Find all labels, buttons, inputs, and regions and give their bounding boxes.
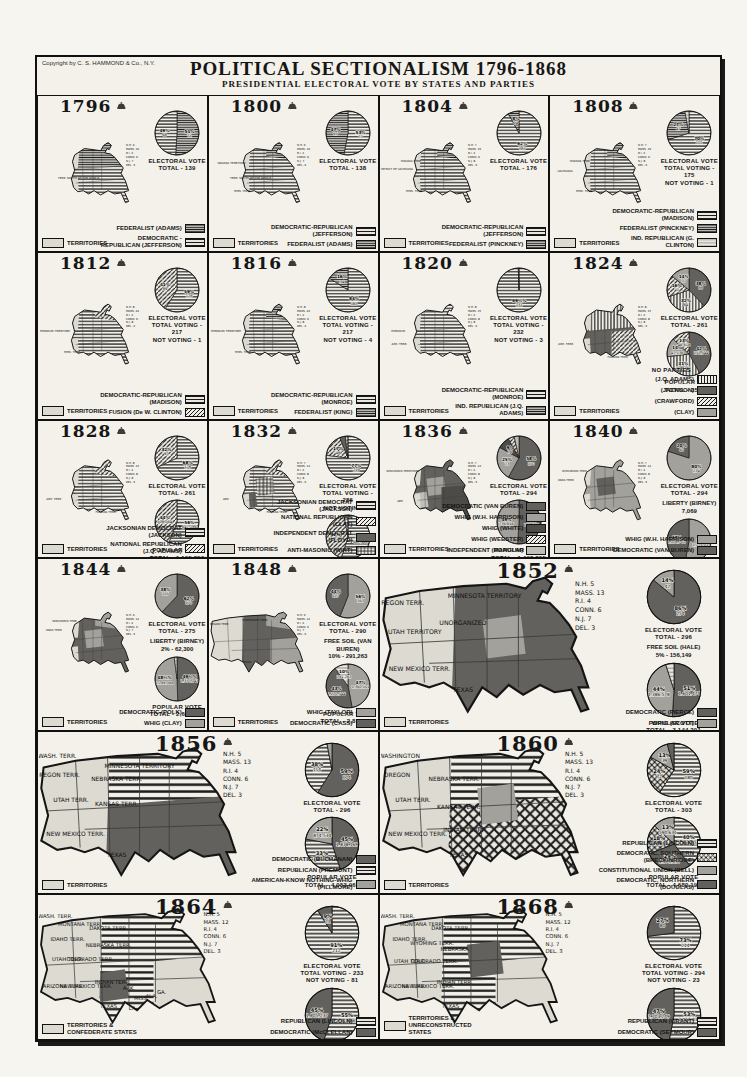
year-label: 1804 (402, 97, 453, 115)
dome-base (630, 107, 638, 109)
map-territory-label: INDIAN TERR. (95, 979, 131, 985)
year-label: 1808 (572, 97, 623, 115)
panel-1868: 1868WASH. TERR.MONTANA TERR.IDAHO TERR.W… (379, 894, 721, 1040)
legend-swatch-fill (185, 709, 204, 717)
party-legend: WHIG (TAYLOR)DEMOCRATIC (CASS) (290, 708, 376, 728)
legend-item-label: WHIG (WHITE) (482, 525, 523, 532)
dome-base (223, 906, 231, 908)
electoral-vote-pie: 53%7347%65 (325, 110, 371, 156)
legend-swatch-fill (698, 709, 717, 717)
party-legend: DEMOCRATIC-REPUBLICAN (MONROE)FEDERALIST… (271, 392, 376, 417)
capitol-dome-icon (221, 899, 233, 909)
map-territory-label: MISS. TERR. (235, 350, 252, 354)
us-map: INDIANA TERRITORYTERR. SOUTH OF THE OHIO… (210, 112, 318, 239)
legend-swatch-fill (527, 390, 546, 398)
pie-caption-line: ELECTORAL VOTE (645, 800, 702, 807)
legend-swatch (185, 719, 205, 728)
pie-caption-line: ELECTORAL VOTE (490, 315, 547, 322)
territories-swatch (42, 406, 64, 416)
pie-caption-line: NOT VOTING - 3 (490, 337, 547, 344)
electoral-vote-pie: 58%17025%739%26 (496, 435, 542, 481)
legend-item: DEMOCRATIC-REPUBLICAN (MADISON) (100, 392, 205, 406)
territories-swatch-fill (384, 407, 405, 416)
legend-swatch (697, 880, 717, 889)
pie-caption-line: TOTAL VOTING - 232 (490, 322, 547, 336)
legend-item-label: REPUBLICAN (GRANT) (628, 1018, 694, 1025)
pie-slice-value: 73 (504, 462, 509, 466)
territories-label: TERRITORIES & UNRECONSTRUCTED STATES (409, 1015, 489, 1036)
legend-swatch (356, 517, 376, 526)
year-block: 1840 (572, 422, 639, 440)
legend-swatch-fill (698, 1018, 717, 1026)
legend-item-label: FEDERALIST (PINCKNEY) (620, 225, 694, 232)
third-party-note: FREE SOIL (VAN BUREN)10% - 291,263 (319, 638, 376, 660)
legend-item: DEMOCRATIC-REPUBLICAN (JEFFERSON) (271, 224, 376, 238)
electoral-vote-pie: 70%12227%47 (666, 110, 712, 156)
legend-swatch (697, 375, 717, 384)
party-legend: DEMOCRATIC (VAN BUREN)WHIG (W.H. HARRISO… (442, 502, 546, 555)
legend-item-label: ANTI-MASONIC (WIRT) (287, 547, 352, 554)
territories-legend: TERRITORIES (384, 880, 449, 890)
pie-caption-line: ELECTORAL VOTE (319, 315, 376, 322)
territories-swatch (384, 238, 406, 248)
legend-swatch-fill (527, 241, 546, 249)
coast-state-label: DEL. 3 (638, 324, 647, 328)
coast-state-label: R.I. 4 (223, 767, 238, 774)
coast-state-label: DEL. 3 (126, 632, 135, 636)
legend-swatch (185, 708, 205, 717)
legend-swatch (697, 535, 717, 544)
map-territory-label: MISSOURI TERRITORY (211, 329, 242, 333)
legend-swatch-fill (185, 395, 204, 403)
third-party-note-line: 5% - 156,149 (647, 652, 701, 659)
dome-base (288, 264, 296, 266)
electoral-vote-caption: ELECTORAL VOTETOTAL VOTING - 175NOT VOTI… (661, 158, 718, 187)
legend-item: WHIG (W.H. HARRISON) (455, 513, 547, 522)
legend-swatch (356, 533, 376, 542)
legend-item-label: (JACKSON) (661, 387, 694, 394)
territories-swatch-fill (213, 545, 234, 554)
legend-item: REPUBLICAN (GRANT) (628, 1017, 717, 1026)
year-label: 1844 (60, 560, 111, 578)
panel-1816: 1816MISSOURI TERRITORYMISS. TERR.N.H. 8M… (208, 252, 379, 420)
pie-caption-line: ELECTORAL VOTE (319, 621, 376, 628)
legend-swatch (526, 502, 546, 511)
territories-swatch (42, 717, 64, 727)
panel-1844: 1844IOWA TERR.WISCONSIN TERR.N.H. 6MASS.… (37, 558, 208, 731)
year-block: 1848 (231, 560, 298, 578)
pie-caption-line: TOTAL - 290 (319, 628, 376, 635)
legend-item-label: DEMOCRATIC-REPUBLICAN (MADISON) (100, 392, 182, 406)
pie-column: 70%12227%47ELECTORAL VOTETOTAL VOTING - … (661, 110, 718, 187)
legend-item: (CLAY) (674, 408, 717, 417)
legend-item: WHIG (W.H. HARRISON) (625, 535, 717, 544)
year-label: 1800 (231, 97, 282, 115)
coast-state-label: DEL. 4 (126, 324, 135, 328)
electoral-vote-pie: 80%23420%60 (666, 435, 712, 481)
pie-column: 99½%231ELECTORAL VOTETOTAL VOTING - 232N… (490, 267, 547, 344)
pie-slice-value: 105 (162, 592, 169, 596)
pie-slice-value: 214 (681, 943, 689, 948)
legend-swatch-fill (527, 503, 546, 511)
legend-item: DEMOCRATIC (VAN BUREN) (613, 546, 717, 555)
electoral-vote-caption: ELECTORAL VOTETOTAL VOTING - 217NOT VOTI… (148, 315, 205, 344)
territories-swatch (384, 880, 406, 890)
year-block: 1844 (60, 560, 127, 578)
territories-swatch-fill (213, 239, 234, 248)
territories-legend: TERRITORIES (42, 544, 107, 554)
territories-legend: TERRITORIES & UNRECONSTRUCTED STATES (384, 1015, 489, 1036)
legend-swatch-fill (185, 409, 204, 417)
legend-swatch-fill (356, 241, 375, 249)
legend-item-label: WHIG (W.H. HARRISON) (625, 536, 694, 543)
legend-swatch (185, 408, 205, 417)
pie-slice-value: 212 (332, 948, 340, 953)
dome-shape (459, 429, 466, 433)
dome-base (288, 570, 296, 572)
electoral-vote-caption: ELECTORAL VOTETOTAL VOTING - 233NOT VOTI… (301, 963, 364, 985)
electoral-vote-pie: 59%18024%7213%39 (646, 742, 702, 798)
pie-slice-value: 128 (186, 294, 194, 298)
party-legend: DEMOCRATIC (POLK)WHIG (CLAY) (119, 708, 205, 728)
coast-state-label: DEL. 3 (564, 792, 583, 799)
year-block: 1824 (572, 254, 639, 272)
legend-swatch (697, 546, 717, 555)
legend-swatch (526, 513, 546, 522)
dome-finial (568, 901, 570, 903)
